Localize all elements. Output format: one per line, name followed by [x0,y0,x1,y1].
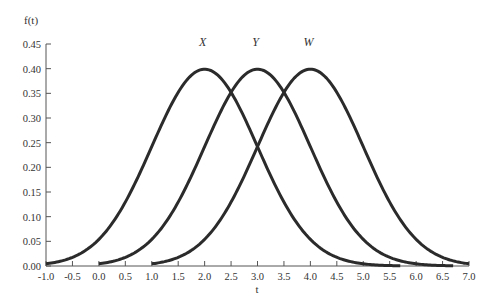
x-tick-label: 6.0 [410,271,423,282]
y-tick-label: 0.05 [23,236,41,247]
series-labels: XYW [198,35,314,49]
x-tick-label: 1.5 [172,271,185,282]
y-tick-label: 0.20 [23,162,41,173]
y-tick-label: 0.35 [23,88,41,99]
x-tick-label: 5.0 [357,271,370,282]
normal-distributions-chart: 0.000.050.100.150.200.250.300.350.400.45… [0,0,492,308]
y-tick-label: 0.30 [23,113,41,124]
x-tick-label: -0.5 [64,271,81,282]
curves [46,69,469,266]
y-tick-label: 0.45 [23,39,41,50]
x-tick-label: -1.0 [38,271,55,282]
y-axis: 0.000.050.100.150.200.250.300.350.400.45 [23,39,51,272]
y-tick-label: 0.15 [23,187,41,198]
x-axis-title: t [255,283,258,295]
series-label-y: Y [252,35,260,49]
y-tick-label: 0.10 [23,212,41,223]
x-tick-label: 0.0 [92,271,105,282]
x-tick-label: 0.5 [119,271,132,282]
curve-y [99,69,453,266]
curve-w [152,69,469,264]
x-tick-label: 4.0 [304,271,317,282]
x-tick-label: 2.0 [198,271,211,282]
x-tick-label: 1.0 [145,271,158,282]
y-tick-label: 0.40 [23,64,41,75]
x-tick-label: 5.5 [383,271,396,282]
x-tick-label: 3.5 [277,271,290,282]
series-label-w: W [303,35,314,49]
series-label-x: X [198,35,207,49]
y-axis-title: f(t) [24,14,38,27]
x-tick-label: 7.0 [462,271,475,282]
x-tick-label: 4.5 [330,271,343,282]
x-tick-label: 3.0 [251,271,264,282]
curve-x [46,69,400,266]
x-tick-label: 6.5 [436,271,449,282]
x-tick-label: 2.5 [225,271,238,282]
y-tick-label: 0.25 [23,138,41,149]
